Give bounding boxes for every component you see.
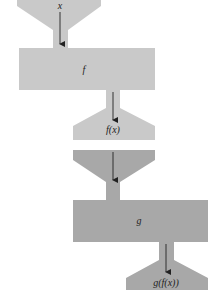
g-input-funnel (73, 150, 155, 200)
f-machine-box (19, 48, 155, 90)
function-composition-diagram: x f f(x) g g(f(x)) (0, 0, 224, 298)
f-output-label: f(x) (106, 124, 121, 136)
g-function-label: g (137, 215, 142, 226)
f-input-label: x (57, 0, 63, 11)
machine-f: x f f(x) (17, 0, 155, 140)
machine-g: g g(f(x)) (73, 150, 208, 290)
g-output-label: g(f(x)) (153, 277, 179, 289)
